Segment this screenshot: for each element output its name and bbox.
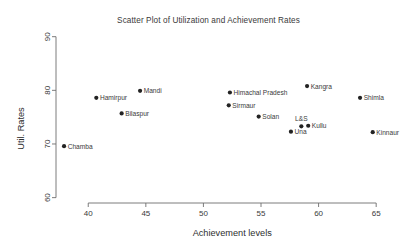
data-point-label: Bilaspur — [125, 110, 150, 118]
data-point-label: Kangra — [311, 83, 333, 91]
x-tick-label: 50 — [199, 209, 208, 218]
y-tick-label: 90 — [44, 32, 53, 41]
y-tick-label: 80 — [44, 85, 53, 94]
data-point-label: Kinnaur — [376, 129, 400, 136]
data-point-label: Kullu — [312, 122, 327, 129]
y-tick-label: 70 — [44, 139, 53, 148]
plot-canvas: 60708090404550556065Achievement levelsUt… — [0, 0, 417, 250]
data-point-marker — [94, 96, 98, 100]
data-point-marker — [306, 124, 310, 128]
scatter-plot-figure: Scatter Plot of Utilization and Achievem… — [0, 0, 417, 250]
data-point-marker — [227, 103, 231, 107]
data-point-label: Hamirpur — [100, 94, 128, 102]
data-point-marker — [138, 89, 142, 93]
data-point-marker — [120, 111, 124, 115]
data-point-marker — [289, 130, 293, 134]
data-point-label: Shimla — [364, 94, 384, 101]
data-point-marker — [358, 96, 362, 100]
data-point-label: Una — [295, 128, 307, 135]
data-point-label: Himachal Pradesh — [234, 89, 288, 96]
data-point-label: Chamba — [68, 143, 93, 150]
y-axis-title: Util. Rates — [16, 107, 26, 150]
data-point-marker — [299, 124, 303, 128]
data-point-label: Sirmaur — [232, 102, 256, 109]
data-point-marker — [257, 115, 261, 119]
data-point-marker — [305, 84, 309, 88]
data-point-marker — [62, 144, 66, 148]
y-tick-label: 60 — [44, 193, 53, 202]
x-tick-label: 55 — [257, 209, 266, 218]
x-tick-label: 65 — [372, 209, 381, 218]
data-point-label: L&S — [295, 115, 308, 122]
data-point-marker — [228, 90, 232, 94]
data-point-label: Mandi — [144, 87, 162, 94]
x-axis-title: Achievement levels — [193, 228, 273, 238]
x-tick-label: 60 — [314, 209, 323, 218]
data-point-label: Solan — [262, 113, 279, 120]
x-tick-label: 40 — [84, 209, 93, 218]
x-tick-label: 45 — [141, 209, 150, 218]
data-point-marker — [371, 130, 375, 134]
